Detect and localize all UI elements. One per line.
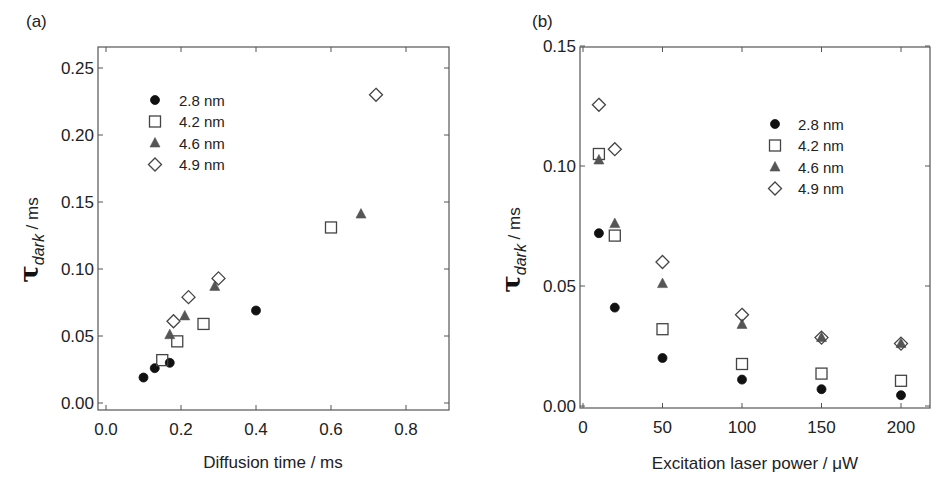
panel-a-y-axis: 0.000.050.100.150.200.25 [61, 59, 449, 413]
data-point [896, 375, 907, 386]
y-tick-label: 0.05 [61, 327, 94, 346]
panel-b-x-axis-title: Excitation laser power / μW [652, 454, 858, 473]
dark-subscript: dark [512, 243, 529, 275]
series-2_8-nm [139, 306, 261, 382]
y-tick-label: 0.15 [61, 193, 94, 212]
x-tick-label: 0.6 [319, 420, 343, 439]
dark-subscript: dark [30, 233, 47, 265]
data-point [816, 368, 827, 379]
panel-b-chart: (b) 050100150200 0.000.050.100.15 Excita… [496, 12, 930, 473]
panel-b-label: (b) [532, 12, 553, 31]
data-point [356, 209, 366, 219]
y-tick-label: 0.10 [61, 260, 94, 279]
legend-label: 2.8 nm [179, 92, 225, 109]
y-tick-label: 0.25 [61, 59, 94, 78]
data-point [658, 278, 668, 288]
legend-item: 4.2 nm [150, 113, 225, 130]
data-point [656, 256, 669, 269]
data-point [738, 375, 747, 384]
panel-a-x-axis-title: Diffusion time / ms [203, 453, 343, 472]
data-point [326, 222, 337, 233]
legend-item: 4.9 nm [769, 180, 844, 197]
data-point [594, 229, 603, 238]
data-point [139, 373, 148, 382]
y-tick-label: 0.10 [543, 157, 576, 176]
data-point [897, 391, 906, 400]
panel-b-y-axis-title: τdark / ms [496, 207, 529, 292]
data-point [609, 230, 620, 241]
legend-item: 4.6 nm [150, 135, 225, 152]
data-point [370, 88, 383, 101]
x-tick-label: 200 [887, 418, 915, 437]
legend-item: 4.2 nm [770, 137, 844, 154]
data-point [180, 310, 190, 320]
series-4_6-nm [594, 155, 906, 348]
data-point [182, 291, 195, 304]
legend-marker-icon [150, 138, 160, 148]
data-point [610, 303, 619, 312]
legend-marker-icon [770, 162, 780, 172]
data-point [165, 329, 175, 339]
y-tick-label: 0.00 [61, 394, 94, 413]
y-tick-label: 0.00 [543, 397, 576, 416]
panel-b-plot-area [580, 47, 930, 408]
legend-marker-icon [770, 140, 781, 151]
legend-item: 2.8 nm [151, 92, 225, 109]
legend-label: 4.2 nm [179, 113, 225, 130]
x-tick-label: 0.0 [94, 420, 118, 439]
panel-b-data-points [592, 98, 907, 399]
legend-label: 4.2 nm [798, 137, 844, 154]
data-point [592, 98, 605, 111]
data-point [608, 143, 621, 156]
ms-unit: / ms [505, 207, 524, 244]
tau-symbol: τ [496, 275, 526, 293]
data-point [210, 281, 220, 291]
legend-marker-icon [771, 120, 780, 129]
tau-symbol: τ [14, 265, 44, 283]
x-tick-label: 50 [653, 418, 672, 437]
series-4_2-nm [593, 149, 906, 387]
legend-label: 4.9 nm [179, 156, 225, 173]
ms-unit: / ms [23, 197, 42, 234]
data-point [252, 306, 261, 315]
legend-item: 2.8 nm [771, 116, 844, 133]
x-tick-label: 0 [578, 418, 587, 437]
data-point [198, 318, 209, 329]
y-tick-label: 0.05 [543, 277, 576, 296]
legend-label: 4.6 nm [798, 159, 844, 176]
data-point [817, 385, 826, 394]
legend-label: 4.6 nm [179, 135, 225, 152]
panel-a-y-axis-title: τdark / ms [14, 197, 47, 282]
panel-b-legend: 2.8 nm4.2 nm4.6 nm4.9 nm [769, 116, 844, 198]
y-tick-label: 0.20 [61, 126, 94, 145]
legend-item: 4.9 nm [149, 156, 225, 173]
legend-item: 4.6 nm [770, 159, 844, 176]
data-point [658, 354, 667, 363]
svg-text:τdark / ms: τdark / ms [14, 197, 47, 282]
x-tick-label: 0.2 [169, 420, 193, 439]
data-point [167, 315, 180, 328]
panel-a-legend: 2.8 nm4.2 nm4.6 nm4.9 nm [149, 92, 225, 174]
legend-label: 4.9 nm [798, 180, 844, 197]
data-point [610, 218, 620, 228]
panel-a-label: (a) [26, 12, 47, 31]
x-tick-label: 0.4 [244, 420, 268, 439]
series-4_9-nm [592, 98, 907, 350]
x-tick-label: 150 [807, 418, 835, 437]
x-tick-label: 100 [728, 418, 756, 437]
series-4_6-nm [165, 209, 366, 339]
figure: (a) 0.00.20.40.60.8 0.000.050.100.150.20… [0, 0, 946, 483]
panel-a-data-points [139, 88, 383, 382]
legend-label: 2.8 nm [798, 116, 844, 133]
y-tick-label: 0.15 [543, 37, 576, 56]
svg-text:τdark / ms: τdark / ms [496, 207, 529, 292]
data-point [737, 319, 747, 329]
legend-marker-icon [150, 116, 161, 127]
series-2_8-nm [594, 229, 905, 400]
data-point [657, 324, 668, 335]
data-point [737, 359, 748, 370]
legend-marker-icon [149, 158, 162, 171]
panel-a-chart: (a) 0.00.20.40.60.8 0.000.050.100.150.20… [14, 12, 449, 472]
series-4_2-nm [157, 222, 337, 366]
legend-marker-icon [769, 182, 782, 195]
